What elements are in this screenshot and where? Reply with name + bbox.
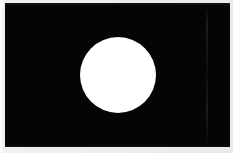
scan-seam-artifact [206, 7, 208, 149]
figure-canvas: Black rectangle with centered white circ… [0, 0, 233, 153]
white-circle-shape [80, 37, 156, 113]
